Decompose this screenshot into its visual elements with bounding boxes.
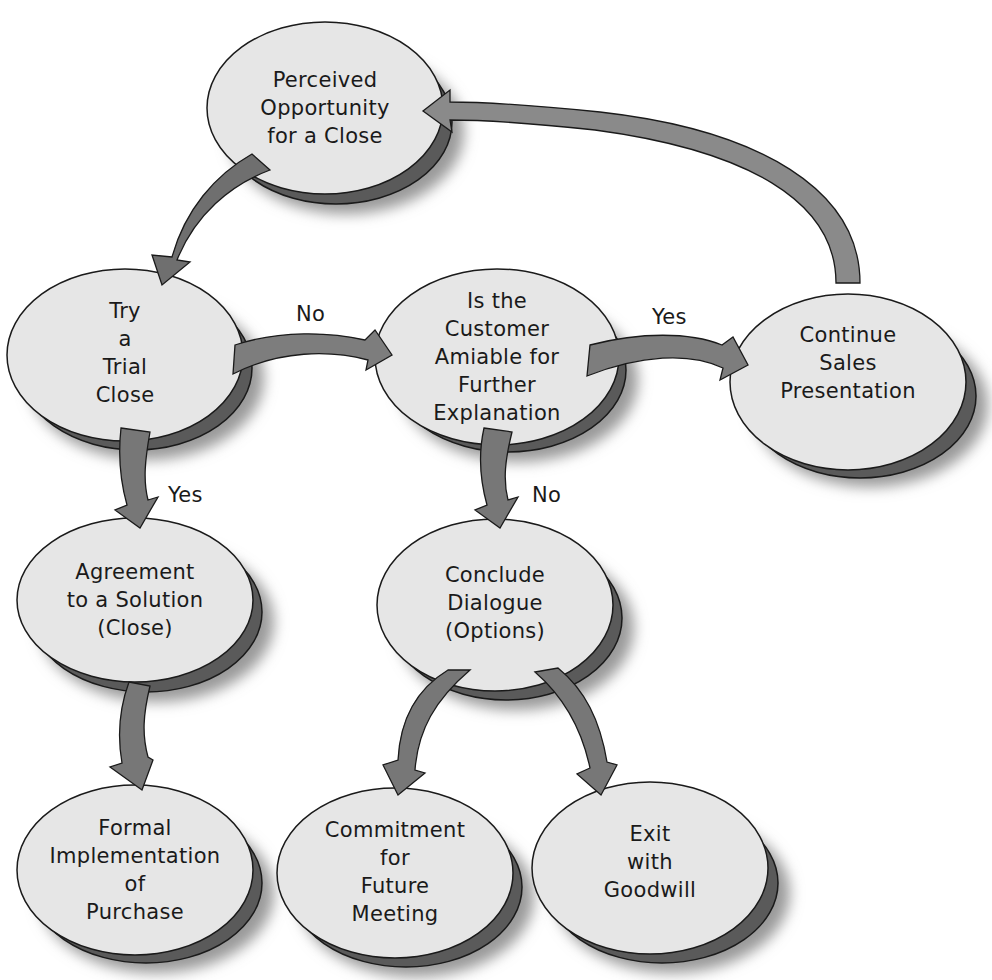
node-continue-sales [730, 294, 988, 487]
edge-label-trial-yes: Yes [168, 483, 203, 507]
node-conclude-dialogue [377, 519, 634, 710]
edge-label-amiable-yes: Yes [652, 305, 687, 329]
node-formal-implementation [17, 785, 274, 973]
edge-label-amiable-no: No [532, 483, 561, 507]
flowchart-canvas [0, 0, 992, 980]
node-agreement [17, 518, 274, 702]
edge-label-trial-no: No [296, 302, 325, 326]
node-commitment [277, 788, 534, 977]
arrow-agreement-to-formal [110, 682, 153, 790]
node-perceived-opportunity [207, 22, 464, 214]
node-exit-goodwill [532, 782, 790, 973]
arrow-perceived-to-trial [152, 154, 270, 285]
arrow-continue-to-perceived [423, 90, 860, 283]
